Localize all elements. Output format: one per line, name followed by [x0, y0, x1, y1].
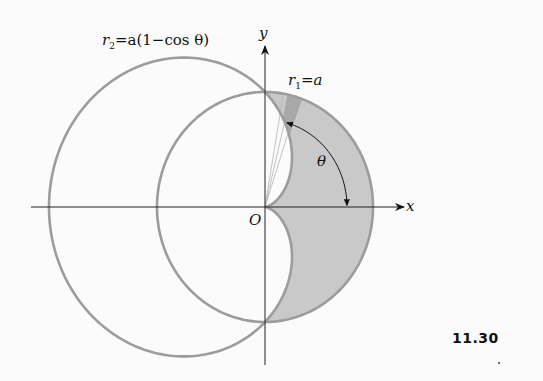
y-axis-label: y — [259, 24, 267, 42]
circle-label: r1=a — [288, 71, 322, 91]
x-axis-label: x — [406, 197, 414, 215]
figure: r2=a(1−cos θ) r1=a y x O θ 11.30 — [0, 0, 543, 381]
cardioid-label: r2=a(1−cos θ) — [102, 31, 209, 51]
diagram-canvas — [0, 0, 543, 381]
figure-number: 11.30 — [452, 330, 499, 346]
dot-mark — [498, 362, 500, 364]
origin-label: O — [249, 211, 261, 229]
angle-label: θ — [317, 152, 326, 170]
